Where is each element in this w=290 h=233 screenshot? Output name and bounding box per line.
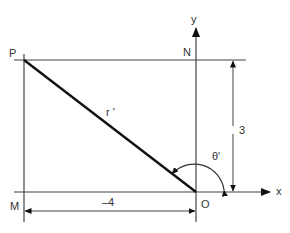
- label-P: P: [9, 47, 16, 59]
- label-N: N: [183, 46, 191, 58]
- label-r-prime: r ': [106, 106, 115, 118]
- label-O: O: [201, 198, 210, 210]
- angle-theta-arc: [172, 164, 224, 190]
- label-dim-horizontal: –4: [102, 196, 114, 208]
- vector-r-prime: [24, 60, 196, 192]
- label-M: M: [10, 200, 19, 212]
- label-y: y: [191, 13, 197, 25]
- label-theta-prime: θ': [212, 150, 220, 162]
- label-dim-vertical: 3: [239, 124, 245, 136]
- polar-coordinate-diagram: P N y x M O r ' θ' –4 3: [0, 0, 290, 233]
- label-x: x: [276, 185, 282, 197]
